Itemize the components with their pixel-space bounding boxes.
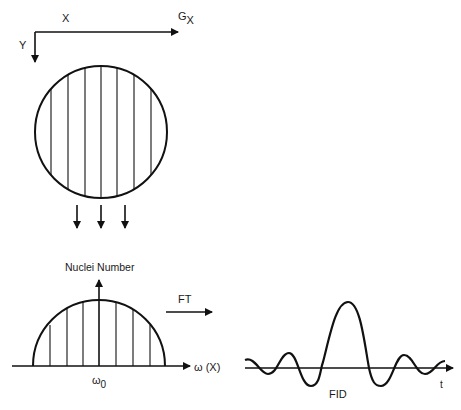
omega-axis-label: ω (X) xyxy=(194,361,220,373)
top-panel: X Y GX xyxy=(19,10,195,228)
nuclei-number-label: Nuclei Number xyxy=(65,261,135,273)
projection-arrows xyxy=(77,205,125,228)
fid-panel: t FID xyxy=(245,302,453,400)
y-axis-label: Y xyxy=(19,39,27,51)
omega-zero-label: ω0 xyxy=(92,374,107,390)
fid-caption: FID xyxy=(329,388,347,400)
sample-circle xyxy=(35,66,167,198)
ft-arrow: FT xyxy=(166,293,212,312)
time-axis-label: t xyxy=(440,379,443,390)
x-axis-label: X xyxy=(62,12,70,24)
ft-label: FT xyxy=(178,293,192,305)
diagram-canvas: X Y GX Nuclei Number ω (X) ω0 xyxy=(0,0,461,410)
spectrum-panel: Nuclei Number ω (X) ω0 xyxy=(12,261,220,390)
gradient-label: GX xyxy=(178,10,195,26)
fid-signal xyxy=(245,302,445,386)
